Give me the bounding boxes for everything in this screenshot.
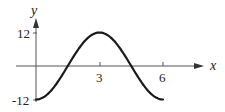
chart: y x 12 -12 3 6: [0, 0, 225, 112]
x-axis-arrow-icon: [194, 63, 204, 69]
y-axis-label: y: [29, 3, 38, 18]
x-tick-label-3: 3: [96, 70, 103, 85]
y-tick-label-12: 12: [17, 26, 30, 41]
x-tick-label-6: 6: [159, 70, 166, 85]
y-axis-arrow-icon: [33, 18, 39, 28]
y-tick-label-neg12: -12: [12, 93, 29, 108]
x-axis-label: x: [209, 58, 217, 73]
